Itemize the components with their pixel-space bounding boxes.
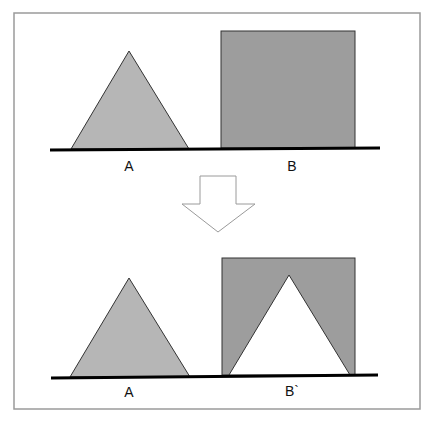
shape-transformation-diagram: A B A B`	[0, 0, 432, 424]
label-b-top: B	[287, 158, 296, 174]
label-a-top: A	[124, 158, 134, 174]
down-arrow-icon	[182, 176, 255, 232]
triangle-a-bottom	[70, 278, 190, 377]
square-b-top	[221, 31, 355, 148]
label-b-prime: B`	[285, 383, 299, 399]
triangle-a-top	[71, 51, 189, 149]
baseline-top	[50, 148, 380, 150]
label-a-bottom: A	[124, 384, 134, 400]
